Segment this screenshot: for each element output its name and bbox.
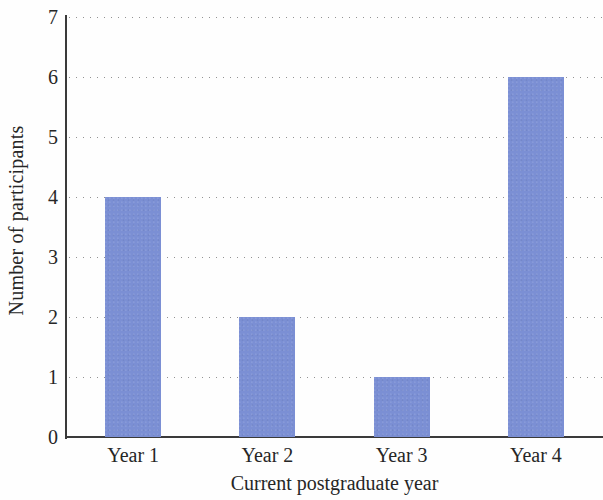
bar <box>239 317 295 437</box>
bar <box>374 377 430 437</box>
bar-chart-figure: Number of participants 01234567 Year 1Ye… <box>0 0 603 500</box>
y-axis-tick-label: 0 <box>48 427 58 447</box>
y-axis-tick-label: 6 <box>48 67 58 87</box>
y-axis-tick-label: 7 <box>48 7 58 27</box>
x-axis-title: Current postgraduate year <box>66 472 603 495</box>
y-axis-tick-label: 2 <box>48 307 58 327</box>
y-axis-title-text: Number of participants <box>6 125 29 315</box>
x-axis-tick-label: Year 1 <box>107 444 159 467</box>
plot-area <box>66 17 603 437</box>
x-axis-title-text: Current postgraduate year <box>231 472 439 494</box>
bar-series <box>66 17 603 437</box>
y-axis-tick-label: 3 <box>48 247 58 267</box>
x-axis-tick-label: Year 3 <box>376 444 428 467</box>
x-axis-tick-labels: Year 1Year 2Year 3Year 4 <box>66 444 603 472</box>
bar <box>105 197 161 437</box>
y-axis-tick-label: 1 <box>48 367 58 387</box>
y-axis-title: Number of participants <box>0 0 34 440</box>
y-axis-tick-labels: 01234567 <box>34 0 62 460</box>
x-axis-tick-label: Year 2 <box>241 444 293 467</box>
bar <box>508 77 564 437</box>
y-axis-tick-label: 4 <box>48 187 58 207</box>
y-axis-tick-label: 5 <box>48 127 58 147</box>
x-axis-tick-label: Year 4 <box>510 444 562 467</box>
